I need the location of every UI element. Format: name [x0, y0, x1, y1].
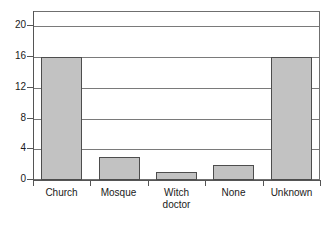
- y-axis-tick-label: 4: [0, 143, 26, 153]
- x-axis-line: [33, 180, 321, 181]
- y-axis-labels: 048121620: [0, 0, 26, 225]
- y-axis-tick-label: 8: [0, 113, 26, 123]
- y-axis-tick-label: 0: [0, 174, 26, 184]
- y-axis-tick: [27, 118, 33, 119]
- y-axis-tick-label: 16: [0, 51, 26, 61]
- bar: [156, 172, 197, 180]
- y-axis-tick: [27, 56, 33, 57]
- y-axis-tick-label: 20: [0, 20, 26, 30]
- bar: [99, 157, 140, 180]
- y-axis-line: [33, 11, 34, 181]
- y-axis-tick: [27, 148, 33, 149]
- y-axis-tick-label: 12: [0, 82, 26, 92]
- y-axis-tick: [27, 87, 33, 88]
- bar: [41, 57, 82, 180]
- gridline-20: [34, 26, 319, 27]
- x-axis-category-label: Unknown: [263, 187, 320, 199]
- x-axis-tick: [148, 181, 149, 186]
- x-axis-category-label: None: [205, 187, 262, 199]
- x-axis-category-label: Witch doctor: [148, 187, 205, 211]
- bar-chart-figure: 048121620 ChurchMosqueWitch doctorNoneUn…: [0, 0, 335, 225]
- x-axis-category-label: Mosque: [90, 187, 147, 199]
- x-axis-tick: [263, 181, 264, 186]
- bar: [271, 57, 312, 180]
- y-axis-tick: [27, 25, 33, 26]
- bar: [213, 165, 254, 180]
- x-axis-tick: [205, 181, 206, 186]
- x-axis-tick: [33, 181, 34, 186]
- x-axis-tick: [320, 181, 321, 186]
- x-axis-tick: [90, 181, 91, 186]
- x-axis-category-label: Church: [33, 187, 90, 199]
